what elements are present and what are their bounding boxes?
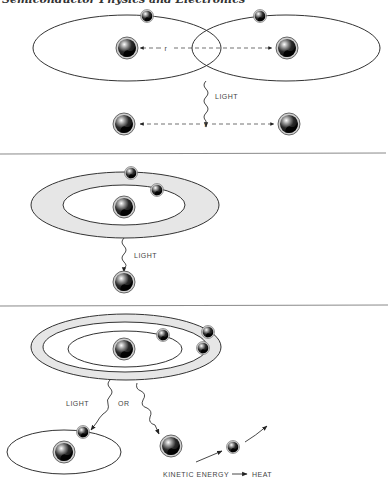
electron-outer-icon-3b [197, 342, 210, 355]
capturing-nucleus-icon [53, 441, 75, 463]
free-atom-right-icon [278, 113, 300, 135]
panel-two-atoms: r LIGHT r [33, 10, 380, 136]
nucleus-right-icon [276, 37, 298, 59]
or-label: OR [118, 400, 130, 407]
electron-outer-icon-3a [202, 326, 215, 339]
diagram-canvas: r LIGHT r LIGHT LIGHT OR [0, 0, 388, 481]
panel-excited-atom: LIGHT [31, 167, 219, 294]
photon-wave-3b [137, 383, 160, 434]
ionized-atom-icon [160, 435, 182, 457]
free-electron-icon [227, 441, 240, 454]
nucleus-left-icon [116, 37, 138, 59]
electron-right-icon [254, 10, 267, 23]
separation-label-bottom: r [205, 121, 208, 128]
captured-electron-icon [77, 426, 90, 439]
separation-label-top: r [165, 45, 168, 52]
electron-inner-icon [151, 184, 164, 197]
panel-multi-level-atom: LIGHT OR KINETIC ENERGY HEAT [7, 314, 272, 478]
nucleus-icon-3 [113, 338, 135, 360]
nucleus-icon [113, 196, 135, 218]
electron-path-out [245, 426, 267, 442]
electron-outer-icon [125, 167, 138, 180]
photon-wave-3a [91, 380, 112, 430]
relaxed-atom-icon [113, 271, 135, 293]
light-label-3: LIGHT [66, 400, 89, 407]
photon-wave-2 [122, 238, 126, 272]
light-label-1: LIGHT [215, 93, 238, 100]
free-atom-left-icon [113, 113, 135, 135]
electron-left-icon [141, 10, 154, 23]
kinetic-energy-label: KINETIC ENERGY [163, 471, 229, 478]
heat-label: HEAT [252, 471, 272, 478]
light-label-2: LIGHT [134, 252, 157, 259]
electron-path-in [196, 451, 222, 462]
electron-inner-icon-3 [157, 329, 170, 342]
divider-1 [0, 153, 386, 154]
divider-2 [0, 305, 388, 306]
